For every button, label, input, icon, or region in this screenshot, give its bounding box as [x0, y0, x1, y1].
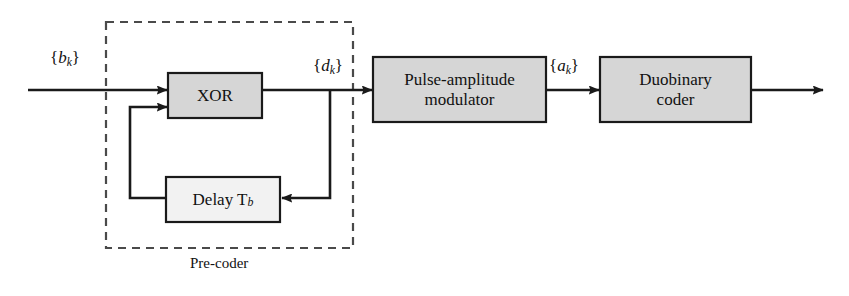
block-delay: [166, 177, 280, 222]
block-duobinary-coder: [600, 57, 751, 122]
signal-label-ak: {ak}: [549, 56, 579, 76]
signal-ak-close-brace: }: [571, 56, 579, 75]
wire-delay-to-xor: [130, 107, 167, 198]
block-pulse-amplitude-modulator: [373, 57, 546, 122]
signal-bk-open-brace: {: [50, 48, 58, 67]
signal-label-dk: {dk}: [313, 56, 343, 76]
block-diagram-figure: XOR Delay Tb Pulse-amplitude modulator D…: [0, 0, 849, 296]
signal-dk-base: d: [321, 56, 330, 75]
signal-bk-close-brace: }: [72, 48, 80, 67]
signal-ak-base: a: [557, 56, 566, 75]
signal-label-bk: {bk}: [50, 48, 80, 68]
signal-bk-subscript: k: [67, 56, 72, 69]
signal-dk-close-brace: }: [335, 56, 343, 75]
signal-dk-open-brace: {: [313, 56, 321, 75]
signal-bk-base: b: [58, 48, 67, 67]
signal-ak-subscript: k: [566, 64, 571, 77]
signal-dk-subscript: k: [330, 64, 335, 77]
precoder-group-label: Pre-coder: [190, 255, 248, 272]
block-xor: [168, 73, 262, 118]
wire-dk-tap-to-delay: [282, 90, 330, 198]
signal-ak-open-brace: {: [549, 56, 557, 75]
diagram-svg: [0, 0, 849, 296]
